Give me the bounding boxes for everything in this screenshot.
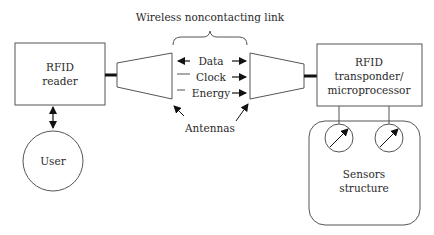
rfid-transponder-box: RFID transponder/ microprocessor (317, 44, 422, 106)
link-title: Wireless noncontacting link (136, 11, 285, 23)
rfid-reader-box: RFID reader (15, 43, 105, 105)
transponder-label-line2: transponder/ (335, 70, 404, 82)
reader-label-line2: reader (42, 75, 78, 87)
signal-label-clock: Clock (196, 71, 227, 83)
transponder-label-line1: RFID (355, 56, 383, 68)
left-antenna (117, 53, 172, 99)
right-antenna-pointer-icon (236, 104, 248, 121)
user-label: User (40, 155, 66, 167)
sensor-gauge-2-icon (375, 124, 403, 152)
signal-label-energy: Energy (192, 87, 230, 99)
brace (173, 31, 247, 45)
right-antenna (250, 53, 304, 99)
signal-data: Data (178, 55, 246, 67)
rfid-system-diagram: Wireless noncontacting link RFID reader … (0, 0, 434, 235)
signal-clock: Clock (177, 71, 246, 83)
sensor-gauge-1-icon (325, 124, 353, 152)
antennas-label: Antennas (184, 122, 235, 134)
user-node: User (23, 131, 83, 191)
left-antenna-pointer-icon (174, 106, 184, 116)
signal-label-data: Data (198, 55, 223, 67)
transponder-label-line3: microprocessor (328, 84, 412, 96)
signal-energy: Energy (177, 87, 246, 99)
sensors-label-line2: structure (339, 182, 389, 194)
sensors-label-line1: Sensors (343, 168, 385, 180)
reader-label-line1: RFID (46, 61, 74, 73)
